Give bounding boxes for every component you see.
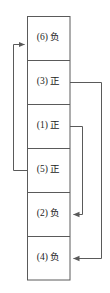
diagram-canvas: (6) 负 (3) 正 (1) 正 (5) 正 (2) 负 (4) 负 xyxy=(0,0,110,293)
table-cell-label: (5) 正 xyxy=(37,165,60,175)
table-row[interactable]: (3) 正 xyxy=(27,60,70,104)
connector-1-to-2 xyxy=(70,127,83,215)
table-cell-label: (4) 负 xyxy=(37,253,60,263)
connector-3-to-4 xyxy=(70,83,102,259)
table-row[interactable]: (4) 负 xyxy=(27,236,70,280)
table-row[interactable]: (5) 正 xyxy=(27,148,70,192)
table-row[interactable]: (6) 负 xyxy=(27,16,70,60)
table-cell-label: (2) 负 xyxy=(37,209,60,219)
table-row[interactable]: (1) 正 xyxy=(27,104,70,148)
connector-5-to-6 xyxy=(14,45,28,171)
table-cell-label: (3) 正 xyxy=(37,77,60,87)
table-cell-label: (1) 正 xyxy=(37,121,60,131)
table-row[interactable]: (2) 负 xyxy=(27,192,70,236)
table-cell-label: (6) 负 xyxy=(37,33,60,43)
